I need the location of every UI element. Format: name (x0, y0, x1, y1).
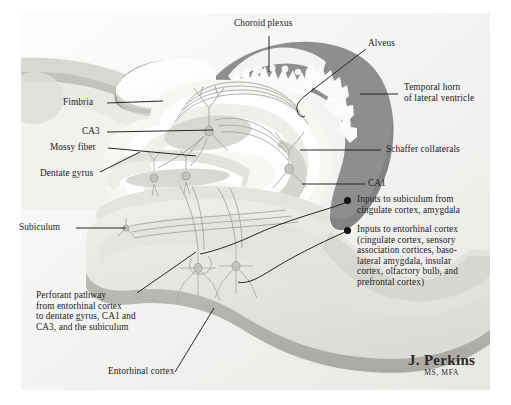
artist-credentials: MS, MFA (408, 368, 475, 377)
artist-credit: J. Perkins MS, MFA (408, 352, 475, 377)
label-perforant-pathway: Perforant pathway from entorhinal cortex… (36, 290, 136, 332)
callout-bullet-entorhinal-inputs (344, 227, 351, 234)
callout-inputs-to-entorhinal-cortex: Inputs to entorhinal cortex (cingulate c… (357, 224, 458, 288)
label-entorhinal-cortex: Entorhinal cortex (108, 366, 175, 377)
callout-inputs-to-subiculum: Inputs to subiculum from cingulate corte… (357, 194, 460, 215)
label-mossy-fiber: Mossy fiber (50, 142, 96, 153)
label-ca1: CA1 (368, 178, 386, 189)
label-alveus: Alveus (368, 38, 395, 49)
label-subiculum: Subiculum (19, 222, 60, 233)
hippocampus-diagram: Choroid plexus Alveus Temporal horn of l… (0, 0, 511, 405)
label-choroid-plexus: Choroid plexus (234, 18, 292, 29)
label-fimbria: Fimbria (63, 97, 93, 108)
label-ca3: CA3 (82, 126, 100, 137)
label-dentate-gyrus: Dentate gyrus (40, 168, 93, 179)
label-temporal-horn: Temporal horn of lateral ventricle (404, 82, 474, 103)
callout-bullet-subiculum-inputs (344, 197, 351, 204)
label-schaffer-collaterals: Schaffer collaterals (386, 144, 460, 155)
artist-name: J. Perkins (408, 352, 475, 369)
